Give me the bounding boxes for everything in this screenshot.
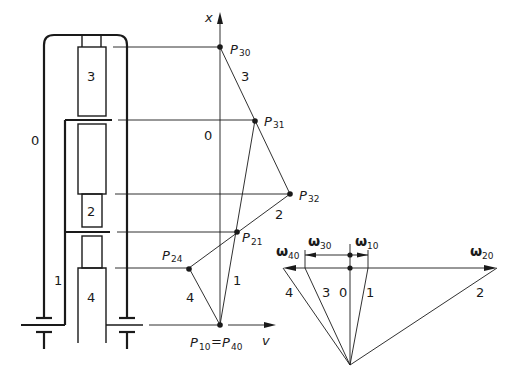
x-axis-arrow-icon xyxy=(217,12,223,24)
svg-text:ω: ω xyxy=(276,243,288,259)
svg-text:30: 30 xyxy=(320,241,332,251)
svg-text:24: 24 xyxy=(171,254,183,264)
label-frame-0: 0 xyxy=(31,133,39,148)
svg-text:30: 30 xyxy=(239,48,251,58)
svg-text:ω: ω xyxy=(355,233,367,249)
label-carrier-1: 1 xyxy=(54,273,62,288)
planetary-gear-diagram: 3 2 4 0 1 xyxy=(0,0,512,378)
label-p31: P 31 xyxy=(264,114,284,130)
label-line-1: 1 xyxy=(233,273,241,288)
svg-text:31: 31 xyxy=(273,120,284,130)
label-p21: P 21 xyxy=(242,230,262,247)
svg-text:10: 10 xyxy=(367,241,379,251)
label-ray-3: 3 xyxy=(322,285,330,300)
dot-upper xyxy=(347,252,352,257)
bearing-left xyxy=(36,318,52,349)
svg-text:ω: ω xyxy=(308,233,320,249)
label-omega20: ω 20 xyxy=(470,243,494,261)
projection-lines xyxy=(113,47,290,325)
label-omega40: ω 40 xyxy=(276,243,300,261)
line-1 xyxy=(220,120,255,325)
label-ray-0: 0 xyxy=(339,285,347,300)
point-p31 xyxy=(252,118,258,124)
svg-text:21: 21 xyxy=(251,237,262,247)
v-axis-label: v xyxy=(262,333,270,348)
omega30-arrow-icon xyxy=(305,253,316,258)
label-ray-2: 2 xyxy=(476,285,484,300)
svg-text:=: = xyxy=(211,334,222,349)
label-line-4: 4 xyxy=(186,290,194,305)
label-frame-0-diagram: 0 xyxy=(204,128,212,143)
angular-velocity-diagram: ω 40 ω 30 ω 10 ω 20 4 3 0 1 2 xyxy=(276,233,497,365)
svg-text:P: P xyxy=(299,188,307,203)
x-axis-label: x xyxy=(204,10,213,25)
label-p30: P 30 xyxy=(230,42,251,58)
point-p10 xyxy=(217,322,223,328)
label-p10-equals-p40: P 10 = P 40 xyxy=(190,334,243,352)
point-p21 xyxy=(234,229,240,235)
velocity-diagram: x v P 30 P 31 P 32 P 21 xyxy=(162,10,319,352)
svg-text:P: P xyxy=(242,230,250,245)
ray-4 xyxy=(283,268,350,365)
label-line-2: 2 xyxy=(275,207,283,222)
planet-upper xyxy=(78,124,106,194)
ray-2 xyxy=(350,268,497,365)
ray-1 xyxy=(350,268,368,365)
label-gear-3: 3 xyxy=(87,69,95,84)
planet-lower-stub xyxy=(82,236,102,268)
point-p24 xyxy=(186,266,192,272)
svg-text:P: P xyxy=(222,335,230,350)
v-axis-arrow-icon xyxy=(264,322,276,328)
omega10-arrow-icon xyxy=(357,253,368,258)
point-p32 xyxy=(287,191,293,197)
sun-gear-4 xyxy=(78,268,106,343)
label-omega10: ω 10 xyxy=(355,233,379,251)
ray-3 xyxy=(305,268,350,365)
label-p24: P 24 xyxy=(162,248,183,264)
svg-text:40: 40 xyxy=(231,342,243,352)
label-ray-4: 4 xyxy=(285,285,293,300)
label-gear-4: 4 xyxy=(87,290,95,305)
svg-text:10: 10 xyxy=(199,342,211,352)
label-omega30: ω 30 xyxy=(308,233,332,251)
svg-text:32: 32 xyxy=(308,194,319,204)
svg-text:P: P xyxy=(162,248,170,263)
svg-text:P: P xyxy=(230,42,238,57)
label-gear-2: 2 xyxy=(87,204,95,219)
svg-text:P: P xyxy=(190,335,198,350)
label-line-3: 3 xyxy=(241,69,249,84)
svg-text:40: 40 xyxy=(288,251,300,261)
bearing-right xyxy=(119,318,135,349)
omega20-arrow-icon xyxy=(484,265,497,271)
gear-train-schematic: 3 2 4 0 1 xyxy=(21,35,143,349)
svg-text:ω: ω xyxy=(470,243,482,259)
label-p32: P 32 xyxy=(299,188,319,204)
svg-text:20: 20 xyxy=(482,251,494,261)
point-p30 xyxy=(217,44,223,50)
svg-text:P: P xyxy=(264,114,272,129)
label-ray-1: 1 xyxy=(366,285,374,300)
